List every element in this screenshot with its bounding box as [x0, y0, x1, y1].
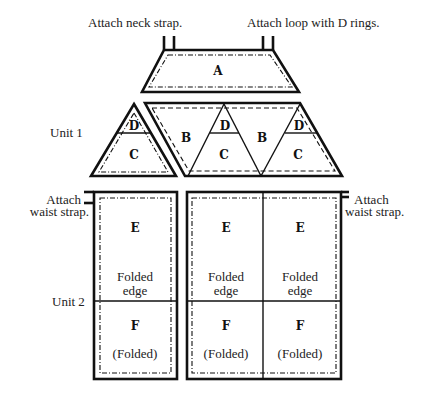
- neck-strap-label: Attach neck strap.: [88, 15, 182, 30]
- folded-note-2: (Folded): [204, 346, 249, 361]
- piece-d-label-3: D: [294, 119, 304, 133]
- piece-a-label: A: [212, 64, 223, 78]
- piece-f-label-3: F: [296, 319, 305, 333]
- neck-strap-marker: [164, 36, 174, 50]
- panel-1: E Folded edge F (Folded): [113, 221, 158, 361]
- waist-strap-left-marker: [84, 192, 94, 203]
- folded-edge-1-line2: edge: [123, 283, 148, 298]
- unit1-left-triangle: D C: [91, 104, 176, 176]
- piece-c-label-2: C: [219, 148, 229, 162]
- piece-d-label-2: D: [220, 119, 230, 133]
- piece-c-label-3: C: [293, 148, 303, 162]
- unit1-strip: B D C B D C: [145, 103, 342, 176]
- piece-e-label-2: E: [221, 221, 230, 235]
- panel-2: E Folded edge F (Folded): [204, 221, 249, 361]
- piece-e-label-3: E: [295, 221, 304, 235]
- sewing-pattern-diagram: Attach neck strap. Attach loop with D ri…: [0, 0, 429, 400]
- piece-b-label-1: B: [181, 131, 191, 145]
- folded-edge-2-line2: edge: [214, 283, 239, 298]
- folded-edge-3-line2: edge: [288, 283, 313, 298]
- folded-edge-2-line1: Folded: [208, 269, 245, 284]
- waist-strap-right-line2: waist strap.: [345, 204, 404, 219]
- piece-d-label: D: [129, 119, 139, 133]
- unit-2-label: Unit 2: [52, 294, 85, 309]
- piece-b-label-2: B: [257, 131, 267, 145]
- piece-f-label-2: F: [222, 319, 231, 333]
- piece-e-label-1: E: [130, 221, 139, 235]
- folded-note-3: (Folded): [278, 346, 323, 361]
- piece-f-label-1: F: [131, 319, 140, 333]
- piece-c-label: C: [129, 148, 139, 162]
- d-ring-loop-marker: [263, 36, 273, 50]
- loop-d-rings-label: Attach loop with D rings.: [247, 15, 380, 30]
- waist-strap-left-line2: waist strap.: [30, 204, 89, 219]
- piece-a: A: [142, 50, 299, 92]
- folded-edge-1-line1: Folded: [117, 269, 154, 284]
- panel-3: E Folded edge F (Folded): [278, 221, 323, 361]
- folded-note-1: (Folded): [113, 346, 158, 361]
- folded-edge-3-line1: Folded: [282, 269, 319, 284]
- unit-1-label: Unit 1: [50, 125, 83, 140]
